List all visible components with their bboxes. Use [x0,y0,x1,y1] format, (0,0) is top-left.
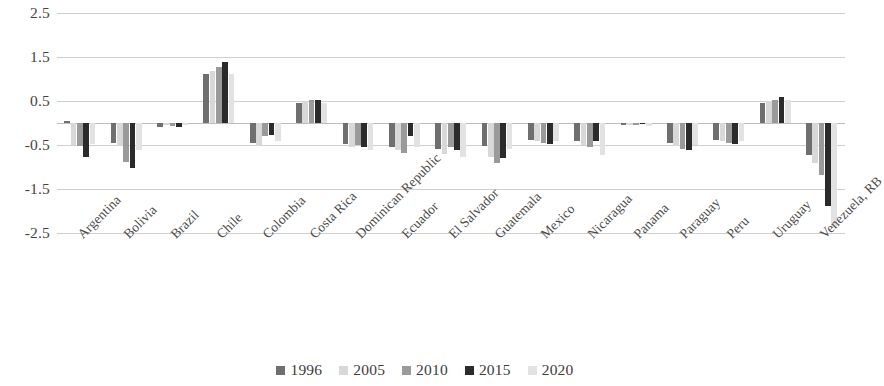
bar [779,97,785,123]
bar [507,123,513,149]
bar [772,100,778,123]
bar [581,123,587,145]
bar [315,100,321,123]
legend-item[interactable]: 2015 [465,362,511,378]
bar [117,123,123,146]
bar [250,123,256,143]
legend-swatch-icon [276,366,285,375]
bar-group [435,13,467,233]
legend-label: 1996 [290,362,322,378]
bar [825,123,831,206]
bar [593,123,599,141]
legend-item[interactable]: 2020 [528,362,574,378]
bar [64,121,70,123]
bar [646,123,652,126]
bar [302,101,308,123]
bar [111,123,117,143]
bar [389,123,395,147]
legend-label: 2010 [416,362,448,378]
legend-label: 2005 [353,362,385,378]
bar [494,123,500,163]
bar [229,74,235,123]
bar [182,123,188,125]
bar [210,71,216,123]
bar [680,123,686,149]
bar [442,123,448,154]
bar [401,123,407,153]
bar [454,123,460,150]
bar [361,123,367,147]
bar [482,123,488,146]
y-axis-tick-label: 1.5 [30,49,50,65]
bar [435,123,441,149]
bar [414,123,420,147]
bar [222,62,228,123]
bar [136,123,142,150]
legend-label: 2015 [479,362,511,378]
bar [673,123,679,146]
bar-group [250,13,282,233]
y-axis-tick-label: 2.5 [30,5,50,21]
bar [460,123,466,157]
y-axis-tick-label: -2.5 [25,225,50,241]
bar-group [760,13,792,233]
bar [621,123,627,125]
bar [269,123,275,135]
bar-group [64,13,96,233]
legend-item[interactable]: 2005 [339,362,385,378]
plot-area [57,13,845,233]
bar [296,103,302,123]
bar [547,123,553,144]
bar [448,123,454,147]
bar [71,123,77,145]
bar [395,123,401,150]
bar-group [667,13,699,233]
bar [732,123,738,144]
bar [349,123,355,147]
bar [309,100,315,123]
y-axis-tick-label: -1.5 [25,181,50,197]
bar [720,123,726,141]
bar [343,123,349,144]
bar [534,123,540,141]
bar [627,123,633,125]
bar-group [806,13,838,233]
legend-item[interactable]: 2010 [402,362,448,378]
bar [216,67,222,123]
bar [633,123,639,125]
legend-swatch-icon [339,366,348,375]
bar-group [157,13,189,233]
bar [321,103,327,123]
chart-legend: 19962005201020152020 [0,358,850,382]
bar [90,123,96,144]
x-axis-labels: ArgentinaBoliviaBrazilChileColombiaCosta… [57,233,845,343]
bar [157,123,163,127]
y-axis-tick-label: -0.5 [25,137,50,153]
bar [203,74,209,123]
bar [553,123,559,141]
legend-swatch-icon [465,366,474,375]
bar [760,103,766,123]
bar [640,123,646,124]
legend-swatch-icon [528,366,537,375]
bar [587,123,593,147]
y-axis: 2.51.50.5-0.5-1.5-2.5 [0,13,50,233]
bar [123,123,129,162]
bar [528,123,534,140]
bar [726,123,732,143]
bar [500,123,506,158]
bar [170,123,176,126]
bar [262,123,268,136]
bar-group [574,13,606,233]
bar [667,123,673,143]
bar [686,123,692,150]
bar-group [203,13,235,233]
legend-item[interactable]: 1996 [276,362,322,378]
bar [176,123,182,127]
bar [163,123,169,125]
legend-swatch-icon [402,366,411,375]
bar [368,123,374,150]
bar [408,123,414,136]
bar [785,100,791,123]
